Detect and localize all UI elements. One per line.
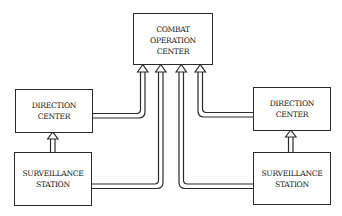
edge-left-surveillance-to-direction <box>48 132 59 152</box>
edge-right-direction-to-coc <box>195 65 253 118</box>
node-label-line: CENTER <box>276 109 309 120</box>
node-label-line: STATION <box>36 179 70 190</box>
edge-right-surveillance-to-direction <box>286 130 297 152</box>
edge-left-surveillance-to-coc <box>91 65 166 189</box>
node-label-line: DIRECTION <box>270 98 314 109</box>
combat-operation-center-box: COMBAT OPERATION CENTER <box>133 13 213 65</box>
node-label-line: CENTER <box>157 46 190 57</box>
surveillance-station-left-box: SURVEILLANCE STATION <box>14 152 92 206</box>
direction-center-right-box: DIRECTION CENTER <box>253 87 331 131</box>
edge-right-surveillance-to-coc <box>176 65 253 189</box>
node-label-line: CENTER <box>38 111 71 122</box>
surveillance-station-right-box: SURVEILLANCE STATION <box>253 152 331 205</box>
node-label-line: STATION <box>275 179 309 190</box>
block-diagram: COMBAT OPERATION CENTER DIRECTION CENTER… <box>0 0 342 216</box>
node-label-line: DIRECTION <box>32 100 76 111</box>
node-label-line: SURVEILLANCE <box>261 168 322 179</box>
node-label-line: OPERATION <box>150 35 196 46</box>
node-label-line: SURVEILLANCE <box>22 168 83 179</box>
direction-center-left-box: DIRECTION CENTER <box>15 89 93 133</box>
edge-left-direction-to-coc <box>92 65 148 119</box>
node-label-line: COMBAT <box>156 24 190 35</box>
